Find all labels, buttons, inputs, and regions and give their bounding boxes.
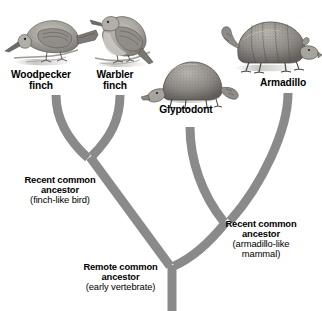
taxon-label-line2: finch xyxy=(2,80,80,91)
taxon-label-line1: Warbler xyxy=(82,69,148,80)
branch-armadillo xyxy=(230,93,288,221)
taxon-label-armadillo: Armadillo xyxy=(247,77,319,88)
taxon-label-line2: finch xyxy=(82,80,148,91)
node-subtitle-line2: mammal) xyxy=(205,249,317,259)
node-subtitle-line1: (finch-like bird) xyxy=(4,195,116,205)
node-label-recent-common-ancestor-finch: Recent common ancestor (finch-like bird) xyxy=(4,175,116,205)
taxon-label-line1: Woodpecker xyxy=(2,69,80,80)
node-subtitle-line1: (early vertebrate) xyxy=(49,282,192,292)
node-label-recent-common-ancestor-armadillo: Recent common ancestor (armadillo-like m… xyxy=(205,219,317,260)
phylogenetic-tree-diagram: Woodpecker finch Warbler finch Glyptodon… xyxy=(0,0,322,311)
branch-glyptodont xyxy=(190,127,224,222)
taxon-label-line1: Glyptodont xyxy=(143,104,229,115)
taxon-label-warbler-finch: Warbler finch xyxy=(82,69,148,91)
branch-warbler-finch xyxy=(92,95,120,156)
node-label-remote-common-ancestor: Remote common ancestor (early vertebrate… xyxy=(49,262,192,292)
taxon-label-line1: Armadillo xyxy=(247,77,319,88)
taxon-label-woodpecker-finch: Woodpecker finch xyxy=(2,69,80,91)
branch-woodpecker-finch xyxy=(56,95,88,158)
branch-finch-ancestor-stem xyxy=(90,157,170,266)
taxon-label-glyptodont: Glyptodont xyxy=(143,104,229,115)
